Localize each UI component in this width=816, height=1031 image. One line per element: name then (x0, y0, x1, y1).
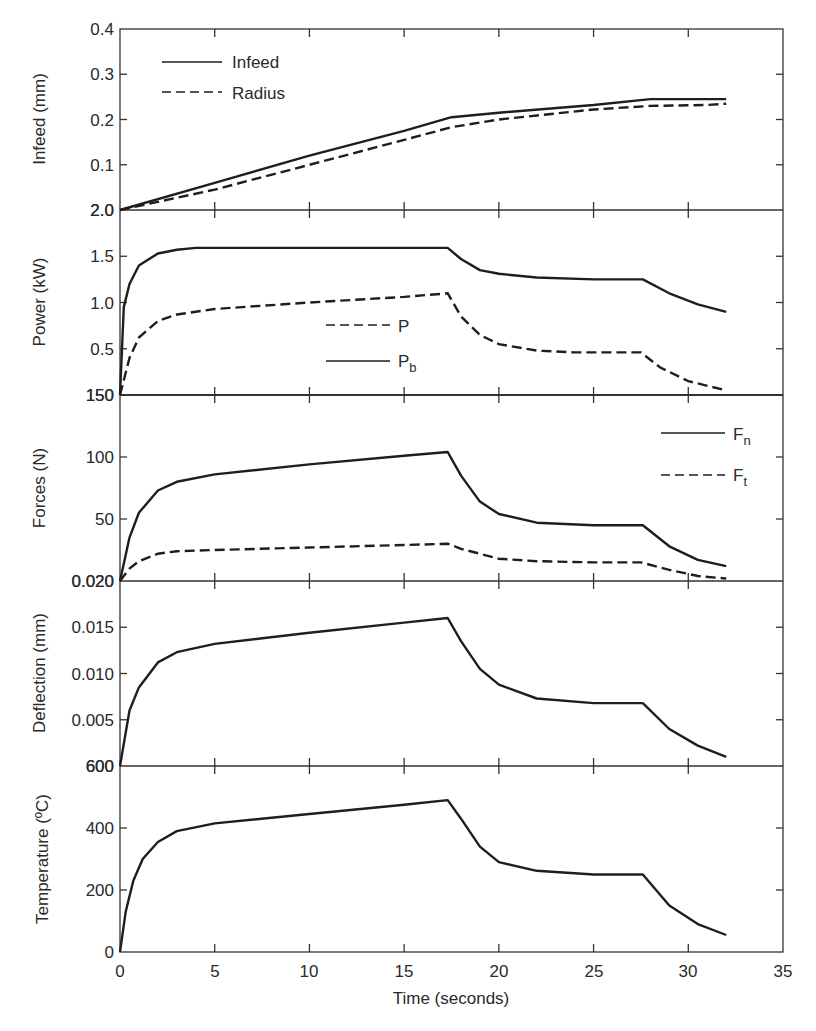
y-tick-label: 1.0 (90, 294, 114, 313)
series-pb (120, 248, 726, 395)
y-axis-label-infeed: Infeed (mm) (30, 73, 49, 165)
legend-label: Infeed (232, 53, 279, 72)
y-axis-label-deflection: Deflection (mm) (30, 613, 49, 733)
series-radius (120, 104, 726, 210)
legend-infeed: Infeed Radius (162, 53, 285, 103)
y-tick-label: 0.015 (71, 618, 114, 637)
y-tick-label: 100 (86, 448, 114, 467)
stacked-line-chart: 2.00.10.20.30.41500.51.01.52.00.02050100… (0, 0, 816, 1031)
y-tick-label: 1.5 (90, 247, 114, 266)
legend-label: Fn (733, 425, 751, 448)
y-axis-label-power: Power (kW) (30, 258, 49, 347)
y-tick-label: 50 (95, 510, 114, 529)
x-tick-label: 15 (395, 962, 414, 981)
x-tick-label: 0 (115, 962, 124, 981)
series-infeed (120, 99, 726, 210)
y-axis-label-temperature: Temperature (ºC) (33, 794, 52, 924)
x-tick-label: 35 (774, 962, 793, 981)
x-tick-label: 30 (679, 962, 698, 981)
legend-power: P Pb (326, 317, 417, 375)
y-tick-label: 0.4 (90, 20, 114, 39)
x-tick-labels: 0 5 10 15 20 25 30 35 (115, 962, 792, 981)
legend-forces: Fn Ft (661, 425, 751, 489)
legend-label: P (398, 317, 409, 336)
y-axis-label-forces: Forces (N) (30, 448, 49, 528)
y-tick-label: 400 (86, 819, 114, 838)
y-tick-label: 0.5 (90, 340, 114, 359)
y-tick-label: 200 (86, 881, 114, 900)
legend-label: Ft (733, 466, 747, 489)
y-tick-label: 2.0 (90, 201, 114, 220)
y-tick-label: 0.020 (71, 572, 114, 591)
y-tick-label: 0.2 (90, 111, 114, 130)
y-tick-label: 0.010 (71, 665, 114, 684)
plot-frame (120, 29, 783, 952)
legend-label: Pb (398, 352, 417, 375)
y-tick-label: 150 (86, 386, 114, 405)
x-axis-label: Time (seconds) (393, 989, 510, 1008)
y-tick-label: 0.3 (90, 65, 114, 84)
series-ft (120, 544, 726, 581)
x-tick-label: 20 (490, 962, 509, 981)
y-tick-label: 0.005 (71, 711, 114, 730)
series-p (120, 293, 726, 395)
x-tick-label: 25 (585, 962, 604, 981)
y-tick-label: 0.1 (90, 156, 114, 175)
y-tick-labels: 2.00.10.20.30.41500.51.01.52.00.02050100… (71, 20, 114, 962)
y-tick-label: 0 (105, 943, 114, 962)
series-temperature (120, 800, 726, 952)
x-tick-label: 10 (300, 962, 319, 981)
series-deflection (120, 618, 726, 766)
axis-ticks (120, 29, 783, 952)
x-tick-label: 5 (210, 962, 219, 981)
y-tick-label: 600 (86, 757, 114, 776)
data-series (120, 99, 726, 952)
legend-label: Radius (232, 84, 285, 103)
